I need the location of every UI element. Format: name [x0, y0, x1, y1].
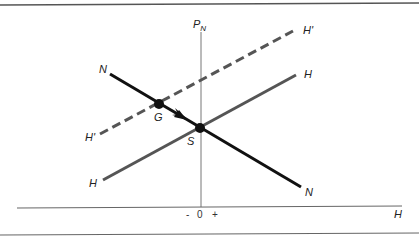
plus-sign: +: [212, 209, 218, 220]
point-s: [195, 123, 205, 133]
n-label-bottom: N: [305, 186, 313, 198]
origin-label: 0: [197, 209, 203, 220]
y-axis-label: PN: [193, 18, 206, 33]
minus-sign: -: [186, 209, 189, 220]
point-g-label: G: [154, 111, 163, 123]
h-label-right: H: [304, 68, 312, 80]
bottom-border: [0, 233, 419, 235]
n-curve: [110, 74, 301, 187]
n-label-top: N: [99, 63, 107, 75]
x-axis-label: H: [394, 208, 402, 220]
point-g: [154, 99, 164, 109]
horizontal-axis: [17, 206, 402, 208]
h-prime-label-left: H': [85, 131, 96, 143]
point-s-label: S: [187, 135, 195, 147]
h-prime-label-right: H': [303, 24, 314, 36]
top-border: [0, 3, 419, 5]
h-prime-curve: [100, 31, 293, 134]
economic-diagram: PN H - 0 + H' H' H H N N G S: [0, 0, 419, 238]
h-label-left: H: [89, 177, 97, 189]
